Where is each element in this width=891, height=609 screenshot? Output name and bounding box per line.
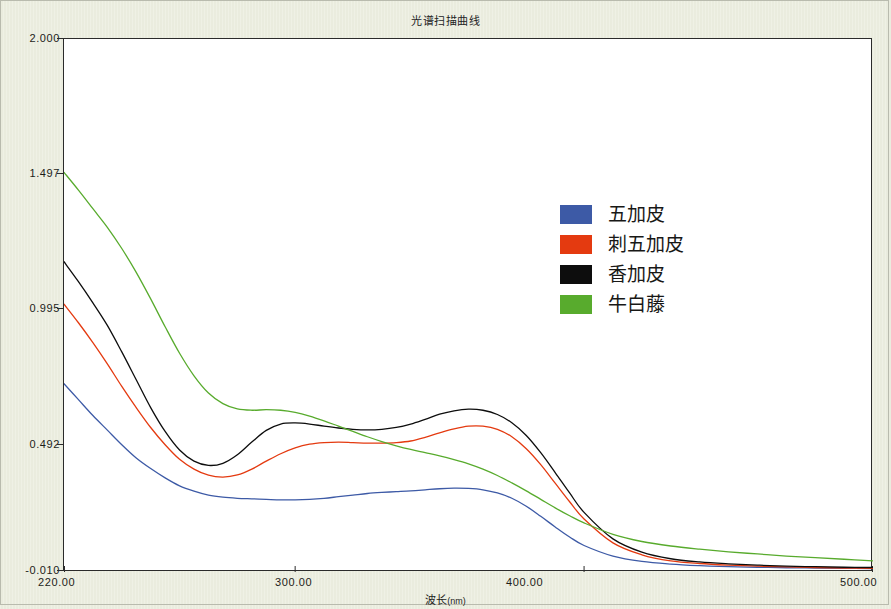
legend-item: 香加皮 [560,259,780,289]
legend-label-3: 牛白藤 [608,295,665,314]
y-tick-label-3: 0.492 [4,438,60,450]
y-tick-label-4: -0.010 [4,564,60,576]
chart-title: 光谱扫描曲线 [0,12,891,28]
x-tick-label-2: 400.00 [506,576,543,588]
legend-label-2: 香加皮 [608,265,665,284]
legend-item: 刺五加皮 [560,229,780,259]
chart-page: 光谱扫描曲线 2.000 1.497 0.995 0.492 -0.010 22… [0,0,891,609]
legend-swatch-icon-3 [560,295,592,314]
x-tick-label-3: 500.00 [840,576,877,588]
y-tick-label-2: 0.995 [4,302,60,314]
legend-item: 五加皮 [560,199,780,229]
x-tick-label-0: 220.00 [38,576,75,588]
spectrum-curve-1 [64,304,873,568]
legend-label-1: 刺五加皮 [608,235,684,254]
legend-swatch-icon-2 [560,265,592,284]
x-axis-title: 波长(nm) [0,591,891,607]
y-tick-label-0: 2.000 [4,32,60,44]
y-axis-labels: 2.000 1.497 0.995 0.492 -0.010 [0,0,60,609]
legend-label-0: 五加皮 [608,205,665,224]
legend-item: 牛白藤 [560,289,780,319]
legend: 五加皮 刺五加皮 香加皮 牛白藤 [560,199,780,319]
x-axis-title-text: 波长 [425,594,447,606]
legend-swatch-icon-0 [560,205,592,224]
x-tick-label-1: 300.00 [275,576,312,588]
legend-swatch-icon-1 [560,235,592,254]
x-axis-unit: (nm) [447,596,466,606]
spectrum-curve-0 [64,384,873,569]
y-tick-label-1: 1.497 [4,167,60,179]
